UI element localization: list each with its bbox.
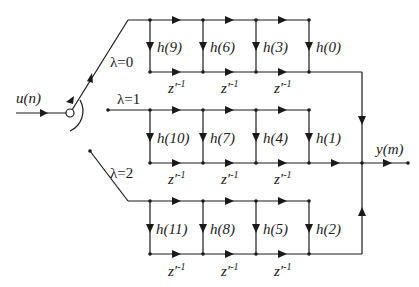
coef-h6: h(6) — [210, 40, 235, 55]
coef-h4: h(4) — [263, 131, 288, 146]
coef-h9: h(9) — [157, 40, 182, 55]
delay-label: z′-1 — [221, 172, 238, 187]
coef-h0: h(0) — [316, 40, 341, 55]
delay-label: z′-1 — [274, 81, 291, 96]
delay-label: z′-1 — [221, 81, 238, 96]
coef-h2: h(2) — [316, 222, 341, 237]
switch-label-2: λ=2 — [110, 166, 133, 181]
coef-h7: h(7) — [210, 131, 235, 146]
coef-h10: h(10) — [157, 131, 190, 146]
input-label: u(n) — [16, 91, 41, 106]
coef-h5: h(5) — [263, 222, 288, 237]
switch-pivot — [66, 109, 74, 117]
coef-h8: h(8) — [210, 222, 235, 237]
delay-label: z′-1 — [274, 172, 291, 187]
output-label: y(m) — [376, 142, 403, 157]
switch-label-0: λ=0 — [110, 55, 133, 70]
coef-h11: h(11) — [156, 222, 187, 237]
delay-label: z′-1 — [168, 81, 185, 96]
delay-label: z′-1 — [274, 264, 291, 279]
switch-label-1: λ=1 — [117, 92, 140, 107]
delay-label: z′-1 — [168, 264, 185, 279]
delay-label: z′-1 — [221, 264, 238, 279]
polyphase-filter-diagram: u(n) y(m) λ=0 λ=1 λ=2 h(9) h(6) h(3) h(0… — [0, 0, 419, 287]
delay-label: z′-1 — [168, 172, 185, 187]
coef-h1: h(1) — [316, 131, 341, 146]
coef-h3: h(3) — [263, 40, 288, 55]
